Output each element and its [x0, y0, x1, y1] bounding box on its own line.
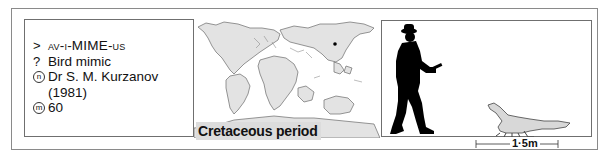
myr-text: 60 — [48, 100, 63, 116]
pronunciation-row: > av-i-MIME-us — [33, 38, 158, 54]
world-map — [194, 18, 380, 138]
named-by-row: n Dr S. M. Kurzanov (1981) — [33, 69, 158, 100]
meaning-row: ? Bird mimic — [33, 54, 158, 70]
named-by-year: (1981) — [48, 85, 87, 100]
pronunciation-chevron-icon: > — [33, 38, 48, 54]
named-by-text: Dr S. M. Kurzanov — [48, 69, 158, 84]
cretaceous-map-icon — [194, 18, 380, 138]
n-circle-icon: n — [33, 71, 45, 83]
meaning-text: Bird mimic — [48, 54, 111, 70]
scale-length-label: 1·5m — [510, 137, 540, 149]
myr-row: m 60 — [33, 100, 158, 116]
m-circle-icon: m — [33, 102, 45, 114]
info-box: > av-i-MIME-us ? Bird mimic n Dr S. M. K… — [24, 19, 194, 137]
location-marker-icon — [333, 42, 337, 46]
question-mark-icon: ? — [33, 54, 48, 70]
pronunciation-text: av-i-MIME-us — [48, 38, 125, 54]
human-silhouette-icon — [390, 24, 442, 134]
size-comparison-box — [381, 20, 592, 137]
map-caption: Cretaceous period — [196, 122, 321, 140]
info-list: > av-i-MIME-us ? Bird mimic n Dr S. M. K… — [33, 38, 158, 116]
avimimus-silhouette-icon — [488, 103, 570, 137]
